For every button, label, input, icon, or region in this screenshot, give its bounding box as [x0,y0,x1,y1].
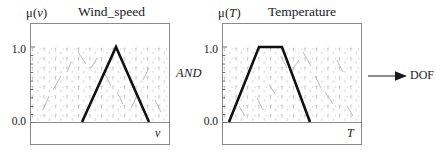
x-axis-label-wind: v [155,126,160,141]
membership-curve-strong [30,23,170,145]
y-axis-label-wind: μ(v) [26,6,47,21]
right-arrow-icon [368,70,408,82]
chart-panel-temperature [222,23,362,145]
y-tick-low-wind: 0.0 [2,115,26,127]
chart-panel-wind-speed [30,23,170,145]
mu-paren-close: ) [236,6,240,20]
y-axis-label-temperature: μ(T) [218,6,241,21]
mu-symbol: μ [218,6,225,20]
operator-label-and: AND [176,66,202,81]
output-label-dof: DOF [410,68,434,83]
mu-symbol: μ [26,6,33,20]
membership-curve-icy-cold [222,23,362,145]
fuzzy-inference-figure: μ(v) Wind_speed 1.0 0.0 Strong [0,0,436,152]
panel-title-temperature: Temperature [268,4,336,20]
mu-paren-close: ) [43,6,47,20]
panel-title-wind-speed: Wind_speed [78,4,145,20]
y-tick-high-wind: 1.0 [2,43,26,55]
y-tick-low-temperature: 0.0 [194,115,218,127]
y-tick-high-temperature: 1.0 [194,43,218,55]
x-axis-label-temperature: T [347,126,354,141]
